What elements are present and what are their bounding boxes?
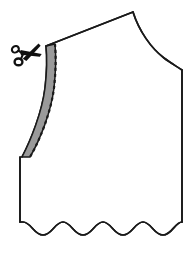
pattern-svg: Sewing pattern bodice front with necklin…	[0, 0, 194, 254]
pattern-diagram: Sewing pattern bodice front with necklin…	[0, 0, 194, 254]
